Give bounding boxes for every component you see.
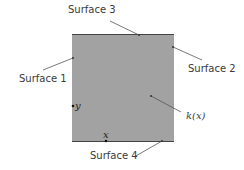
conductivity-label: k(x)	[186, 110, 206, 121]
x-axis-label: x	[103, 129, 109, 140]
y-axis-label: y	[75, 100, 81, 111]
surface-2-label: Surface 2	[188, 63, 236, 74]
surface-1-label: Surface 1	[19, 73, 67, 84]
surface-3-label: Surface 3	[68, 4, 116, 15]
leader-lines	[0, 0, 244, 170]
surface-4-label: Surface 4	[90, 150, 138, 161]
